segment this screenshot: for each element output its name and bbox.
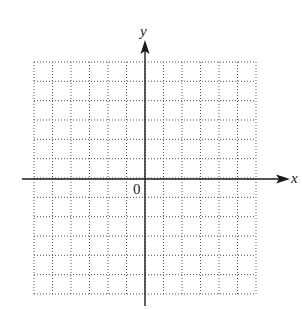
x-axis-label: x [290, 170, 298, 186]
y-axis-label: y [138, 23, 147, 39]
origin-label: 0 [133, 181, 141, 197]
coordinate-plane: x y 0 [0, 0, 302, 310]
